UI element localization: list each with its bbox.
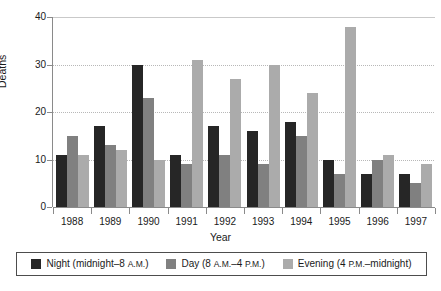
- legend-item-day[interactable]: Day (8 A.M.–4 P.M.): [166, 258, 264, 270]
- bar-night-1994[interactable]: [285, 122, 296, 208]
- bar-night-1997[interactable]: [399, 174, 410, 207]
- x-tick-mark: [359, 208, 360, 214]
- legend-item-evening[interactable]: Evening (4 P.M.–midnight): [283, 258, 412, 270]
- y-tick-label: 40: [26, 12, 46, 22]
- x-tick-marks: [53, 208, 435, 214]
- bar-day-1996[interactable]: [372, 160, 383, 208]
- bar-evening-1993[interactable]: [269, 65, 280, 208]
- y-tick-label: 10: [26, 155, 46, 165]
- x-tick-mark: [129, 208, 130, 214]
- bar-group-1990: [132, 17, 165, 207]
- x-tick-mark: [53, 208, 54, 214]
- bar-day-1993[interactable]: [258, 164, 269, 207]
- chart-legend: Night (midnight–8 A.M.) Day (8 A.M.–4 P.…: [16, 252, 427, 276]
- bar-group-1993: [247, 17, 280, 207]
- x-tick-mark: [435, 208, 436, 214]
- y-tick-mark: [47, 207, 52, 208]
- legend-item-night[interactable]: Night (midnight–8 A.M.): [31, 258, 148, 270]
- bar-group-1996: [361, 17, 394, 207]
- y-tick-label: 0: [26, 202, 46, 212]
- bar-night-1990[interactable]: [132, 65, 143, 208]
- bar-day-1988[interactable]: [67, 136, 78, 207]
- y-tick-label-group: 010203040: [24, 17, 46, 207]
- legend-label-evening: Evening (4 P.M.–midnight): [298, 258, 412, 270]
- bar-night-1993[interactable]: [247, 131, 258, 207]
- y-tick-label: 20: [26, 107, 46, 117]
- day-swatch-icon: [166, 259, 176, 269]
- x-axis-title: Year: [0, 231, 441, 243]
- y-tick-mark: [47, 112, 52, 113]
- bar-group-1997: [399, 17, 432, 207]
- bar-day-1990[interactable]: [143, 98, 154, 207]
- legend-label-night: Night (midnight–8 A.M.): [46, 258, 148, 270]
- bar-night-1995[interactable]: [323, 160, 334, 208]
- bar-day-1997[interactable]: [410, 183, 421, 207]
- x-tick-mark: [168, 208, 169, 214]
- bar-day-1995[interactable]: [334, 174, 345, 207]
- bar-night-1988[interactable]: [56, 155, 67, 207]
- chart-container: Deaths 010203040 19881989199019911992199…: [0, 0, 441, 291]
- night-swatch-icon: [31, 259, 41, 269]
- bar-evening-1995[interactable]: [345, 27, 356, 208]
- bar-group-1991: [170, 17, 203, 207]
- bar-day-1992[interactable]: [219, 155, 230, 207]
- x-tick-label-group: 1988198919901991199219931994199519961997: [53, 216, 435, 230]
- bar-night-1992[interactable]: [208, 126, 219, 207]
- y-axis-title: Deaths: [0, 55, 8, 88]
- bar-group-1988: [56, 17, 89, 207]
- bar-group-1989: [94, 17, 127, 207]
- bar-group-container: [53, 17, 435, 207]
- bar-evening-1994[interactable]: [307, 93, 318, 207]
- x-tick-mark: [282, 208, 283, 214]
- x-tick-mark: [244, 208, 245, 214]
- bar-group-1995: [323, 17, 356, 207]
- x-tick-label-1997: 1997: [394, 216, 438, 228]
- bar-day-1991[interactable]: [181, 164, 192, 207]
- bar-evening-1988[interactable]: [78, 155, 89, 207]
- bar-night-1989[interactable]: [94, 126, 105, 207]
- x-tick-mark: [206, 208, 207, 214]
- y-tick-mark: [47, 17, 52, 18]
- bar-night-1991[interactable]: [170, 155, 181, 207]
- bar-evening-1996[interactable]: [383, 155, 394, 207]
- legend-label-day: Day (8 A.M.–4 P.M.): [181, 258, 264, 270]
- bar-evening-1989[interactable]: [116, 150, 127, 207]
- bar-evening-1997[interactable]: [421, 164, 432, 207]
- bar-group-1994: [285, 17, 318, 207]
- bar-group-1992: [208, 17, 241, 207]
- evening-swatch-icon: [283, 259, 293, 269]
- x-tick-mark: [91, 208, 92, 214]
- x-tick-mark: [397, 208, 398, 214]
- bar-evening-1992[interactable]: [230, 79, 241, 207]
- bar-day-1989[interactable]: [105, 145, 116, 207]
- y-tick-mark: [47, 160, 52, 161]
- bar-evening-1991[interactable]: [192, 60, 203, 207]
- y-tick-label: 30: [26, 60, 46, 70]
- bar-day-1994[interactable]: [296, 136, 307, 207]
- bar-night-1996[interactable]: [361, 174, 372, 207]
- bar-evening-1990[interactable]: [154, 160, 165, 208]
- y-tick-mark: [47, 65, 52, 66]
- x-tick-mark: [320, 208, 321, 214]
